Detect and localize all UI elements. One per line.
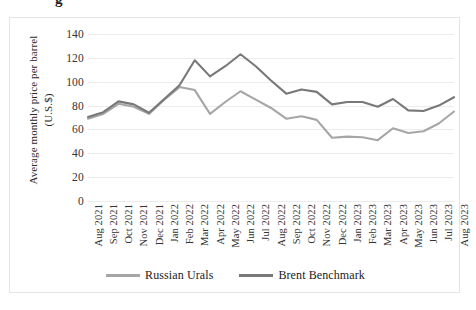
x-axis-tick-label: Nov 2022 [321, 204, 332, 247]
y-axis-tick-label: 0 [78, 195, 84, 207]
y-axis-tick-label: 120 [66, 52, 84, 64]
series-line [88, 87, 454, 140]
x-axis-tick-label: Aug 2022 [276, 204, 287, 247]
y-axis-tick-label: 40 [72, 147, 84, 159]
legend-label: Brent Benchmark [278, 268, 364, 283]
legend-item[interactable]: Brent Benchmark [239, 268, 364, 283]
x-axis-tick-label: Jan 2022 [169, 204, 180, 242]
x-axis-tick-label: Jan 2023 [352, 204, 363, 242]
x-axis-tick-label: Dec 2022 [337, 204, 348, 245]
x-axis-tick-label: Feb 2023 [367, 204, 378, 244]
plot-area [88, 34, 454, 201]
x-axis-tick-label: May 2022 [230, 204, 241, 248]
x-axis-tick-label: Oct 2021 [123, 204, 134, 244]
x-axis-tick-label: Dec 2021 [154, 204, 165, 245]
x-axis-tick-label: Mar 2023 [382, 204, 393, 246]
y-axis-tick-label: 80 [72, 100, 84, 112]
y-axis-tick-label: 100 [66, 76, 84, 88]
x-axis-tick-label: Sep 2021 [108, 204, 119, 244]
x-axis-tick-label: Apr 2023 [398, 204, 409, 245]
legend-item[interactable]: Russian Urals [106, 268, 213, 283]
y-axis-tick-labels: 020406080100120140 [48, 18, 84, 294]
x-axis-tick-label: Feb 2022 [184, 204, 195, 244]
x-axis-tick-label: Sep 2022 [291, 204, 302, 244]
x-axis-tick-label: Mar 2022 [199, 204, 210, 246]
chart-legend: Russian UralsBrent Benchmark [10, 268, 461, 283]
legend-swatch-icon [106, 274, 140, 277]
x-axis-tick-label: Jul 2022 [260, 204, 271, 241]
legend-swatch-icon [239, 274, 273, 277]
chart-plot-wrapper: Average monthly price per barrel(U.S.$) … [10, 18, 461, 294]
x-axis-tick-label: May 2023 [413, 204, 424, 248]
legend-label: Russian Urals [145, 268, 213, 283]
y-axis-tick-label: 60 [72, 123, 84, 135]
x-axis-tick-label: Jun 2023 [428, 204, 439, 243]
x-axis-tick-label: Oct 2022 [306, 204, 317, 244]
y-axis-tick-label: 20 [72, 171, 84, 183]
x-axis-tick-label: Jul 2023 [443, 204, 454, 241]
gridline [88, 201, 454, 202]
y-axis-title-line-0: Average monthly price per barrel [26, 15, 41, 205]
y-axis-tick-label: 140 [66, 28, 84, 40]
series-lines [88, 34, 454, 201]
x-axis-tick-label: Nov 2021 [138, 204, 149, 247]
x-axis-tick-label: Jun 2022 [245, 204, 256, 243]
x-axis-tick-label: Aug 2023 [459, 204, 470, 247]
chart-container: Average monthly price per barrel(U.S.$) … [9, 17, 460, 293]
x-axis-tick-label: Aug 2021 [93, 204, 104, 247]
cropped-heading-fragment: g [55, 0, 63, 8]
x-axis-tick-label: Apr 2022 [215, 204, 226, 245]
